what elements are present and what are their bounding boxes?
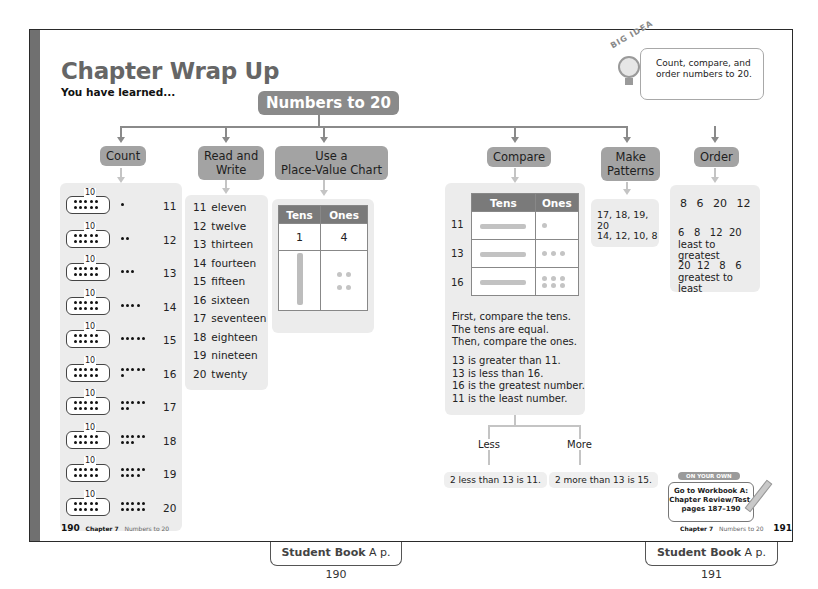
dot-icon bbox=[74, 502, 77, 505]
count-row: 1015 bbox=[66, 327, 186, 349]
dot-icon bbox=[74, 206, 77, 209]
dot-icon bbox=[126, 304, 129, 307]
tab-letter: A bbox=[745, 546, 753, 559]
order-panel: 8 6 20 12 6 8 12 20 least to greatest 20… bbox=[670, 185, 760, 292]
compare-row bbox=[472, 268, 579, 296]
dot-icon bbox=[90, 374, 93, 377]
dot-icon bbox=[79, 340, 82, 343]
dot-icon bbox=[95, 273, 98, 276]
compare-step: Then, compare the ones. bbox=[452, 336, 577, 349]
tens-header: Tens bbox=[472, 194, 536, 212]
extra-dots bbox=[121, 337, 147, 340]
number-word-row: 16 sixteen bbox=[193, 294, 250, 312]
dot-icon bbox=[90, 334, 93, 337]
branch-label-line: Read and bbox=[204, 149, 258, 163]
extra-dots bbox=[121, 435, 147, 438]
dot-icon bbox=[95, 407, 98, 410]
ten-frame-icon: 10 bbox=[66, 297, 110, 315]
dot-icon bbox=[79, 240, 82, 243]
big-idea-text: Count, compare, and order numbers to 20. bbox=[656, 58, 756, 80]
ten-frame-icon: 10 bbox=[66, 364, 110, 382]
count-row: 1020 bbox=[66, 495, 186, 517]
dot-icon bbox=[90, 301, 93, 304]
arrow-down-icon bbox=[711, 137, 719, 143]
ten-rod-icon bbox=[480, 224, 526, 229]
student-book-tab-190[interactable]: Student Book A p. 190 bbox=[270, 542, 402, 566]
on-your-own-line: Chapter Review/Test, bbox=[669, 496, 753, 505]
ten-frame-label: 10 bbox=[84, 389, 96, 398]
less-example: 2 less than 13 is 11. bbox=[444, 472, 547, 488]
extra-dots bbox=[121, 441, 137, 444]
dot-icon bbox=[90, 307, 93, 310]
footer-right: Chapter 7 Numbers to 20 191 bbox=[680, 523, 792, 533]
ten-frame-label: 10 bbox=[84, 490, 96, 499]
numeral: 15 bbox=[193, 275, 208, 287]
student-book-tab-191[interactable]: Student Book A p. 191 bbox=[645, 542, 778, 566]
extra-dots bbox=[121, 374, 126, 377]
dot-icon bbox=[79, 200, 82, 203]
dot-icon bbox=[95, 240, 98, 243]
unit-cube-icon bbox=[542, 251, 547, 256]
dot-icon bbox=[126, 474, 129, 477]
dot-row bbox=[74, 435, 100, 438]
dot-icon bbox=[79, 407, 82, 410]
page-number: 191 bbox=[773, 523, 792, 533]
ten-frame-icon: 10 bbox=[66, 464, 110, 482]
count-number: 14 bbox=[163, 301, 176, 313]
dot-icon bbox=[84, 273, 87, 276]
ten-frame-icon: 10 bbox=[66, 330, 110, 348]
dot-row bbox=[74, 401, 100, 404]
number-word: thirteen bbox=[211, 238, 253, 250]
page-number: 190 bbox=[61, 523, 80, 533]
chapter-label: Chapter 7 bbox=[86, 525, 119, 532]
numeral: 17 bbox=[193, 312, 208, 324]
dot-icon bbox=[74, 273, 77, 276]
unit-cube-icon bbox=[337, 272, 342, 277]
dot-icon bbox=[126, 237, 129, 240]
dot-icon bbox=[131, 270, 134, 273]
dot-icon bbox=[79, 468, 82, 471]
dot-row bbox=[74, 200, 100, 203]
dot-icon bbox=[142, 401, 145, 404]
dot-row bbox=[74, 334, 100, 337]
dot-icon bbox=[90, 401, 93, 404]
extra-dots bbox=[121, 203, 126, 206]
extra-dots bbox=[121, 401, 147, 404]
connector bbox=[318, 114, 320, 126]
ten-frame-icon: 10 bbox=[66, 397, 110, 415]
dot-icon bbox=[137, 508, 140, 511]
number-word: eleven bbox=[211, 201, 246, 213]
dot-icon bbox=[90, 435, 93, 438]
ten-frame-label: 10 bbox=[84, 289, 96, 298]
count-row: 1017 bbox=[66, 394, 186, 416]
dot-icon bbox=[74, 267, 77, 270]
dot-icon bbox=[74, 468, 77, 471]
ten-frame-label: 10 bbox=[84, 423, 96, 432]
count-row: 1013 bbox=[66, 260, 186, 282]
arrow-down-icon bbox=[222, 188, 230, 194]
dot-icon bbox=[95, 468, 98, 471]
dot-icon bbox=[142, 502, 145, 505]
dot-icon bbox=[95, 435, 98, 438]
dot-icon bbox=[79, 334, 82, 337]
descending-order: 20 12 8 6 bbox=[678, 260, 742, 271]
branch-label-line: Write bbox=[204, 163, 258, 177]
dot-icon bbox=[121, 407, 124, 410]
connector bbox=[514, 415, 516, 425]
number-word-row: 19 nineteen bbox=[193, 349, 258, 367]
ten-frame-label: 10 bbox=[84, 222, 96, 231]
number-word-row: 15 fifteen bbox=[193, 275, 245, 293]
dot-icon bbox=[79, 441, 82, 444]
dot-icon bbox=[84, 374, 87, 377]
dot-icon bbox=[74, 301, 77, 304]
dot-icon bbox=[74, 334, 77, 337]
number-word-row: 18 eighteen bbox=[193, 331, 258, 349]
dot-row bbox=[74, 307, 100, 310]
number-word-row: 17 seventeen bbox=[193, 312, 266, 330]
dot-icon bbox=[79, 502, 82, 505]
compare-row-label: 16 bbox=[451, 277, 464, 290]
unit-cube-icon bbox=[551, 283, 556, 288]
ones-header: Ones bbox=[535, 194, 578, 212]
ten-frame-label: 10 bbox=[84, 255, 96, 264]
extra-dots bbox=[121, 508, 147, 511]
